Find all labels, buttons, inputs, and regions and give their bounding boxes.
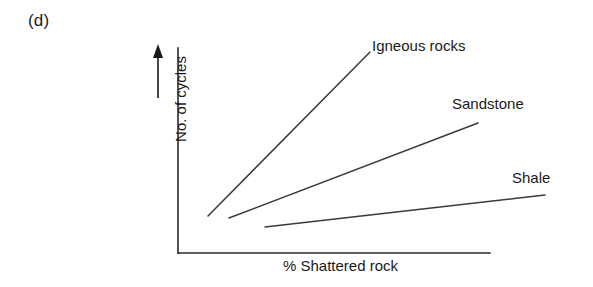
series-line-shale: [265, 195, 545, 227]
plot-area: [0, 0, 593, 287]
y-axis-title: No. of cycles: [171, 19, 191, 179]
series-label-shale: Shale: [512, 170, 550, 185]
x-axis-title: % Shattered rock: [283, 258, 398, 273]
y-axis-title-wrapper: No. of cycles: [171, 19, 191, 179]
series-label-sandstone: Sandstone: [452, 96, 524, 111]
y-axis-direction-arrow-head: [153, 44, 163, 58]
series-line-sandstone: [229, 123, 478, 218]
series-label-igneous-rocks: Igneous rocks: [372, 38, 465, 53]
series-line-igneous-rocks: [208, 52, 370, 216]
figure-panel-d: (d) Igneous rocks Sandstone Shale % Shat…: [0, 0, 593, 287]
